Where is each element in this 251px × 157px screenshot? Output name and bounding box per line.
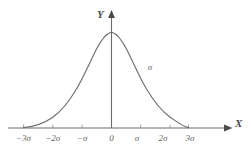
sigma-curve-annotation: σ: [148, 63, 152, 72]
x-tick-label-zero: 0: [109, 133, 114, 143]
normal-distribution-figure: Y X σ −3σ −2σ −σ 0 σ 2σ 3σ: [0, 0, 251, 157]
x-tick-label-2-sigma: 2σ: [159, 133, 168, 143]
x-tick-label-sigma: σ: [135, 133, 139, 143]
x-axis-arrowhead: [224, 125, 233, 132]
x-tick-label-3-sigma: 3σ: [186, 133, 195, 143]
y-axis-label: Y: [97, 9, 104, 20]
x-tick-label-minus-sigma: −σ: [77, 133, 88, 143]
y-axis-arrowhead: [108, 10, 115, 18]
plot-canvas: [0, 0, 251, 157]
gaussian-curve: [24, 32, 189, 128]
x-tick-label-minus-3-sigma: −3σ: [16, 133, 31, 143]
x-tick-label-minus-2-sigma: −2σ: [45, 133, 60, 143]
x-axis-label: X: [235, 118, 242, 129]
